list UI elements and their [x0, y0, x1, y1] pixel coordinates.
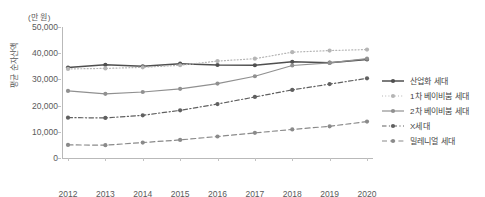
- x-tick-label: 2020: [358, 189, 377, 197]
- x-tick-label: 2018: [283, 189, 302, 197]
- data-point: [215, 102, 219, 106]
- x-tick-mark: [255, 158, 256, 161]
- data-point: [141, 65, 145, 69]
- data-point: [290, 88, 294, 92]
- legend-item-3[interactable]: 2차 베이비붐 세대: [381, 104, 469, 117]
- series-layer: [62, 27, 373, 158]
- x-tick-label: 2014: [133, 189, 152, 197]
- legend-line-swatch: [381, 105, 405, 117]
- y-tick-label: 20,000: [4, 101, 58, 111]
- data-point: [103, 116, 107, 120]
- data-point: [178, 87, 182, 91]
- legend-label: 산업화 세대: [410, 75, 448, 86]
- data-point: [290, 50, 294, 54]
- x-tick-label: 2017: [245, 189, 264, 197]
- x-tick-mark: [180, 158, 181, 161]
- data-point: [66, 143, 70, 147]
- series-2: [66, 47, 369, 71]
- data-point: [253, 131, 257, 135]
- data-point: [290, 63, 294, 67]
- data-point: [253, 95, 257, 99]
- x-tick-label: 2012: [59, 189, 78, 197]
- x-tick-label: 2015: [171, 189, 190, 197]
- y-tick-label: 40,000: [4, 48, 58, 58]
- chart-legend: 산업화 세대1차 베이비붐 세대2차 베이비붐 세대X세대밀레니얼 세대: [381, 74, 469, 147]
- y-tick-mark: [58, 158, 61, 159]
- x-tick-mark: [292, 158, 293, 161]
- y-tick-mark: [58, 106, 61, 107]
- y-axis-tick-labels: 010,00020,00030,00040,00050,000: [0, 0, 58, 158]
- y-tick-label: 30,000: [4, 74, 58, 84]
- series-5: [66, 119, 369, 147]
- data-point: [365, 47, 369, 51]
- plot-area: 201220132014201520162017201820192020: [62, 27, 373, 158]
- data-point: [215, 59, 219, 63]
- data-point: [365, 76, 369, 80]
- data-point: [290, 60, 294, 64]
- net-asset-line-chart: (만 원) 평균 순자산액 010,00020,00030,00040,0005…: [0, 0, 485, 197]
- data-point: [253, 74, 257, 78]
- legend-label: X세대: [410, 120, 430, 131]
- data-point: [178, 108, 182, 112]
- y-tick-mark: [58, 53, 61, 54]
- data-point: [365, 119, 369, 123]
- data-point: [253, 63, 257, 67]
- legend-line-swatch: [381, 135, 405, 147]
- data-point: [215, 81, 219, 85]
- data-point: [215, 63, 219, 67]
- legend-item-1[interactable]: 산업화 세대: [381, 74, 469, 87]
- x-tick-mark: [330, 158, 331, 161]
- data-point: [103, 63, 107, 67]
- data-point: [328, 48, 332, 52]
- legend-label: 2차 베이비붐 세대: [410, 105, 469, 116]
- x-tick-label: 2019: [320, 189, 339, 197]
- data-point: [290, 127, 294, 131]
- data-point: [66, 116, 70, 120]
- legend-label: 1차 베이비붐 세대: [410, 90, 469, 101]
- x-tick-mark: [367, 158, 368, 161]
- data-point: [328, 82, 332, 86]
- data-point: [141, 90, 145, 94]
- x-tick-mark: [218, 158, 219, 161]
- x-tick-mark: [105, 158, 106, 161]
- data-point: [103, 143, 107, 147]
- legend-line-swatch: [381, 90, 405, 102]
- data-point: [178, 63, 182, 67]
- data-point: [215, 134, 219, 138]
- legend-item-4[interactable]: X세대: [381, 119, 469, 132]
- y-tick-label: 0: [4, 153, 58, 163]
- y-tick-mark: [58, 132, 61, 133]
- data-point: [141, 113, 145, 117]
- x-tick-label: 2016: [208, 189, 227, 197]
- data-point: [66, 89, 70, 93]
- x-tick-label: 2013: [96, 189, 115, 197]
- data-point: [365, 57, 369, 61]
- legend-item-5[interactable]: 밀레니얼 세대: [381, 134, 469, 147]
- x-tick-mark: [68, 158, 69, 161]
- data-point: [253, 57, 257, 61]
- x-tick-mark: [143, 158, 144, 161]
- data-point: [103, 66, 107, 70]
- legend-item-2[interactable]: 1차 베이비붐 세대: [381, 89, 469, 102]
- legend-label: 밀레니얼 세대: [410, 135, 455, 146]
- series-line: [68, 122, 367, 146]
- data-point: [328, 124, 332, 128]
- data-point: [103, 92, 107, 96]
- legend-line-swatch: [381, 120, 405, 132]
- data-point: [66, 67, 70, 71]
- y-tick-mark: [58, 27, 61, 28]
- y-tick-label: 10,000: [4, 127, 58, 137]
- data-point: [141, 140, 145, 144]
- y-tick-mark: [58, 79, 61, 80]
- y-tick-label: 50,000: [4, 22, 58, 32]
- legend-line-swatch: [381, 75, 405, 87]
- data-point: [178, 138, 182, 142]
- data-point: [328, 61, 332, 65]
